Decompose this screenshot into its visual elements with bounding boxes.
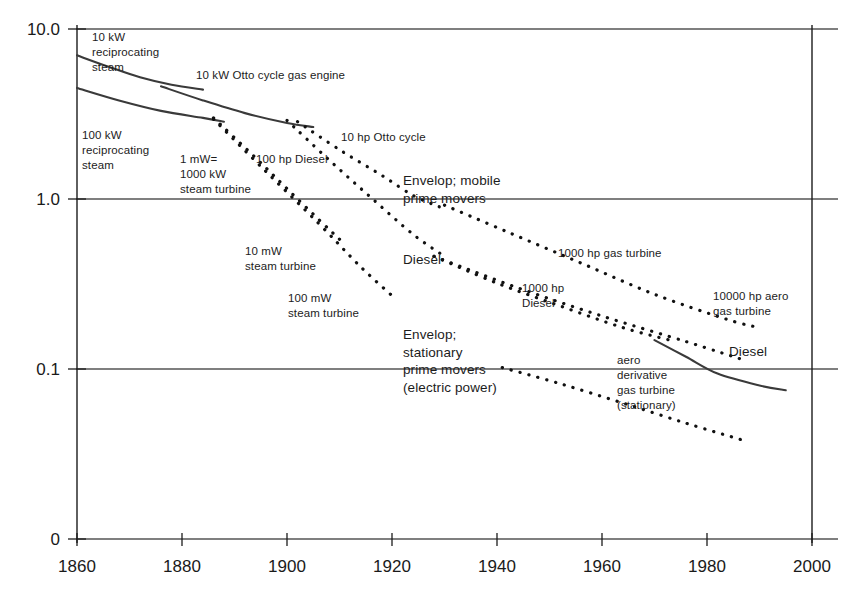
y-tick-label-10: 10.0 — [27, 20, 60, 39]
x-tick-label-2000: 2000 — [793, 557, 831, 576]
ann-10000hp-aero-gas-turbine: 10000 hp aero gas turbine — [713, 289, 788, 319]
x-tick-label-1920: 1920 — [373, 557, 411, 576]
ann-10mw-steam-turbine: 10 mW steam turbine — [245, 244, 316, 274]
x-tick-label-1880: 1880 — [163, 557, 201, 576]
chart-figure: 10.0 1.0 0.1 0 1860 1880 1900 1920 1940 … — [0, 0, 847, 596]
ann-100mw-steam-turbine: 100 mW steam turbine — [288, 291, 359, 321]
ann-1000hp-gas-turbine: 1000 hp gas turbine — [558, 246, 662, 261]
x-tick-label-1900: 1900 — [268, 557, 306, 576]
ann-1mw-steam-turbine: 1 mW= 1000 kW steam turbine — [180, 152, 251, 197]
ann-envelop-mobile: Envelop; mobile prime movers — [403, 172, 501, 207]
ann-10kw-otto-gas-engine: 10 kW Otto cycle gas engine — [196, 68, 345, 83]
ann-aero-derivative: aero derivative gas turbine (stationary) — [617, 353, 676, 413]
ann-diesel-mid: Diesel — [403, 251, 441, 269]
x-tick-label-1860: 1860 — [58, 557, 96, 576]
x-tick-label-1960: 1960 — [583, 557, 621, 576]
series-curve — [161, 86, 313, 127]
ann-100kw-recip-steam: 100 kW reciprocating steam — [82, 128, 149, 173]
ann-1000hp-diesel: 1000 hp Diesel — [522, 281, 564, 311]
ann-envelop-stationary: Envelop; stationary prime movers (electr… — [403, 326, 497, 396]
y-tick-label-1: 1.0 — [36, 190, 60, 209]
ann-100hp-diesel: 100 hp Diesel — [256, 152, 328, 167]
y-tick-label-0.1: 0.1 — [36, 360, 60, 379]
x-tick-label-1980: 1980 — [688, 557, 726, 576]
y-tick-label-0: 0 — [51, 530, 60, 549]
ann-diesel-right: Diesel — [729, 343, 767, 361]
series-curve — [77, 88, 224, 122]
ann-10kw-recip-steam: 10 kW reciprocating steam — [92, 30, 159, 75]
ann-10hp-otto-cycle: 10 hp Otto cycle — [341, 130, 426, 145]
x-tick-label-1940: 1940 — [478, 557, 516, 576]
